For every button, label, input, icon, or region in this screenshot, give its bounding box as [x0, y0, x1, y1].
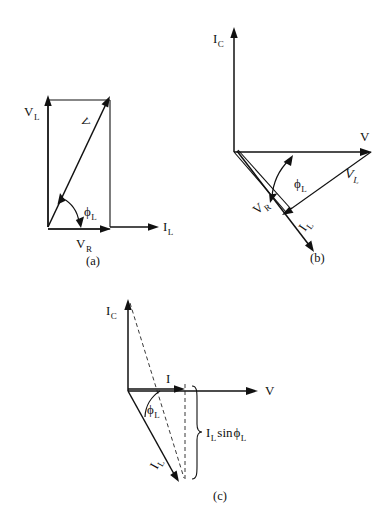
diagram-a-resultant-vector [48, 104, 106, 227]
phasor-figure: VL VR IL ϕL V (a) [0, 0, 392, 527]
diagram-c-caption: (c) [213, 489, 227, 503]
diagram-c-v-label: V [265, 383, 275, 398]
diagram-b-phi-label: ϕL [294, 176, 307, 194]
diagram-c-i-label: I [166, 371, 170, 386]
diagram-a-phi-arc-head-bottom [76, 217, 84, 228]
diagram-c-il-arrowhead [170, 470, 179, 482]
diagram-a-resultant-arrowhead [102, 96, 111, 108]
diagram-a-il-label: IL [163, 219, 173, 237]
diagram-a-phi-label: ϕL [84, 204, 97, 222]
figure-canvas: VL VR IL ϕL V (a) [0, 0, 392, 527]
diagram-c-brace-label: ILsinϕL [206, 425, 246, 443]
diagram-b-vr-label: VR [250, 196, 273, 220]
diagram-b-vr-edge-2 [238, 150, 291, 209]
diagram-c-il-label: IL [146, 455, 166, 472]
diagram-b-caption: (b) [310, 251, 325, 265]
diagram-c-phi-label: ϕL [147, 402, 160, 420]
diagram-a: VL VR IL ϕL V (a) [24, 95, 173, 268]
diagram-a-vl-label: VL [24, 104, 39, 122]
diagram-a-vr-label: VR [76, 236, 92, 254]
diagram-c-ic-label: IC [106, 303, 117, 321]
diagram-b-vl-label: VL [343, 165, 362, 185]
diagram-a-caption: (a) [86, 254, 100, 268]
diagram-b: IC V VL VR IL ϕL (b) [213, 27, 372, 265]
diagram-c-v-arrowhead [246, 387, 258, 395]
diagram-a-il-arrowhead [148, 223, 159, 230]
diagram-b-ic-arrowhead [230, 27, 237, 38]
diagram-a-phi-arc [62, 198, 79, 222]
diagram-c: IC V I ϕL IL ILsinϕL (c) [106, 299, 275, 503]
diagram-b-v-label: V [360, 129, 370, 144]
diagram-b-il-label: IL [295, 217, 315, 236]
diagram-c-brace [192, 386, 202, 479]
diagram-a-resultant-label: V [78, 116, 93, 129]
diagram-b-ic-label: IC [213, 31, 224, 49]
diagram-a-vr-arrowhead [100, 225, 111, 232]
